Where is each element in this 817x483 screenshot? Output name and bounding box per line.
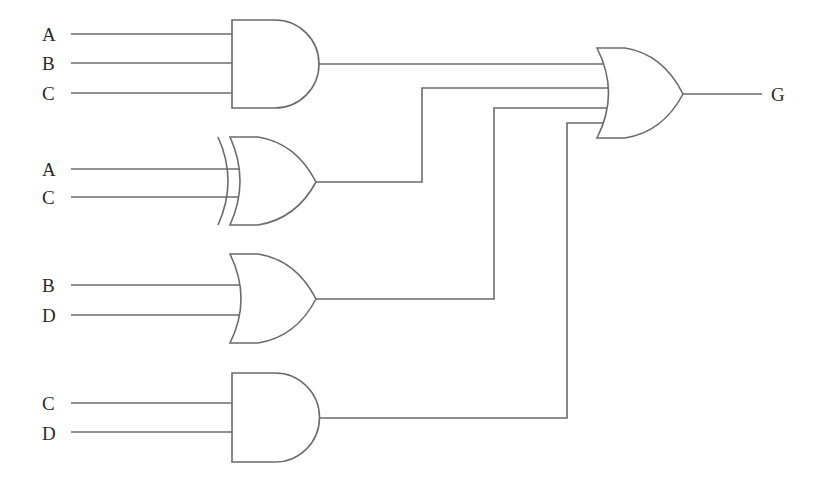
input-label-d: D bbox=[42, 423, 56, 444]
or-gate-icon bbox=[230, 254, 316, 343]
input-label-c: C bbox=[42, 393, 55, 414]
input-label-a: A bbox=[42, 159, 56, 180]
input-wires bbox=[71, 34, 241, 432]
input-label-c: C bbox=[42, 187, 55, 208]
intermediate-wires bbox=[316, 64, 612, 418]
input-label-c: C bbox=[42, 83, 55, 104]
input-label-b: B bbox=[42, 53, 55, 74]
input-label-b: B bbox=[42, 275, 55, 296]
final-or-gate-icon bbox=[597, 48, 683, 138]
input-label-d: D bbox=[42, 305, 56, 326]
and-gate-icon bbox=[232, 373, 320, 462]
xor-gate-icon bbox=[218, 137, 316, 225]
output-label-g: G bbox=[771, 84, 785, 105]
and-gate-icon bbox=[232, 20, 319, 108]
logic-circuit-diagram: A B C A C B D C D G bbox=[0, 0, 817, 483]
input-label-a: A bbox=[42, 24, 56, 45]
